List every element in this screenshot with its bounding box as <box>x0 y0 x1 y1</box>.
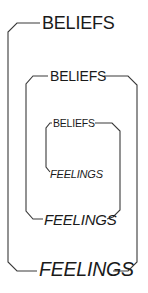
middle-beliefs-label: BELIEFS <box>50 69 106 83</box>
inner-feelings-label: FEELINGS <box>50 169 103 180</box>
inner-beliefs-label: BELIEFS <box>53 118 95 129</box>
connector-lines <box>0 0 148 293</box>
outer-left-connector <box>8 23 40 271</box>
middle-feelings-label: FEELINGS <box>44 212 117 227</box>
beliefs-feelings-spiral-diagram: BELIEFS BELIEFS BELIEFS FEELINGS FEELING… <box>0 0 148 293</box>
outer-beliefs-label: BELIEFS <box>42 14 115 32</box>
inner-left-connector <box>46 123 52 172</box>
middle-left-connector <box>26 76 48 219</box>
outer-feelings-label: FEELINGS <box>39 260 134 280</box>
